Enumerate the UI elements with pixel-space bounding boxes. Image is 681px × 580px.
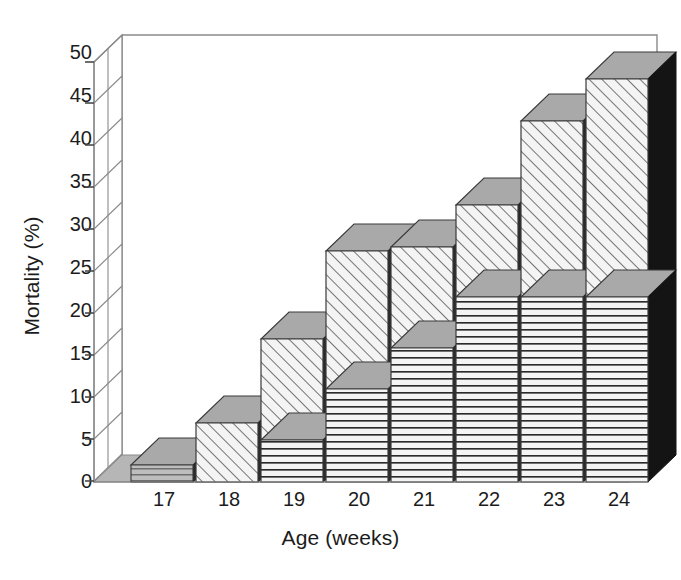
bar-24-upper-side: [648, 52, 676, 297]
bar-24-lower-side: [648, 270, 676, 482]
bar-24-upper-front: [586, 79, 648, 297]
chart-figure: 50 45 40 35 30 25 20 15 10 5 0 17 18 19 …: [0, 0, 681, 580]
bar-24-lower-front: [586, 297, 648, 482]
bar-17-lower-front: [131, 465, 193, 482]
bar-20-lower-front: [326, 389, 388, 482]
y-axis-wall: [85, 35, 122, 482]
bar-19-lower-front: [261, 440, 323, 482]
bar-18-upper-front: [196, 423, 258, 482]
bar-22-lower-front: [456, 297, 518, 482]
plot-area: [0, 0, 681, 580]
bar-21-lower-front: [391, 348, 453, 482]
bar-23-lower-front: [521, 297, 583, 482]
bar-group-24[interactable]: [586, 52, 676, 482]
